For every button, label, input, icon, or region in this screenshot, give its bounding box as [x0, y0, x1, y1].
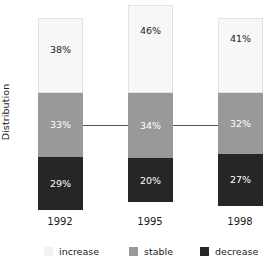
legend-label-increase: increase [59, 246, 99, 257]
bar-1992-label-stable: 33% [38, 120, 83, 130]
bar-1995[interactable]: 46% 34% 20% [128, 5, 173, 202]
bar-1995-segment-decrease[interactable]: 20% [128, 158, 173, 202]
bar-1995-segment-increase[interactable]: 46% [128, 5, 173, 93]
legend-swatch-increase-icon [44, 247, 53, 256]
bar-1998-label-increase: 41% [219, 34, 262, 44]
legend-label-decrease: decrease [215, 246, 258, 257]
legend-item-decrease[interactable]: decrease [200, 243, 258, 259]
bar-1992-label-increase: 38% [39, 45, 82, 55]
bar-1998-label-decrease: 27% [218, 175, 263, 185]
stacked-bar-chart: Distribution 38% 33% 29% 1992 46% 34% 20… [0, 0, 274, 267]
legend-item-stable[interactable]: stable [129, 243, 173, 259]
bar-1998[interactable]: 41% 32% 27% [218, 18, 263, 206]
bar-1992-segment-stable[interactable]: 33% [38, 93, 83, 157]
bar-1998-segment-decrease[interactable]: 27% [218, 154, 263, 206]
connector-line-1992-1995 [83, 125, 128, 126]
bar-1992[interactable]: 38% 33% 29% [38, 18, 83, 210]
legend-label-stable: stable [144, 246, 173, 257]
bar-1998-label-stable: 32% [218, 119, 263, 129]
legend-swatch-decrease-icon [200, 247, 209, 256]
x-tick-label-1998: 1998 [205, 216, 274, 227]
legend: increase stable decrease [0, 243, 274, 261]
bar-1992-segment-decrease[interactable]: 29% [38, 157, 83, 210]
y-axis-title: Distribution [0, 76, 16, 148]
bar-1992-segment-increase[interactable]: 38% [38, 18, 83, 93]
legend-swatch-stable-icon [129, 247, 138, 256]
bar-1995-label-increase: 46% [129, 26, 172, 36]
legend-item-increase[interactable]: increase [44, 243, 99, 259]
bar-1992-label-decrease: 29% [38, 179, 83, 189]
x-tick-label-1992: 1992 [25, 216, 95, 227]
x-tick-label-1995: 1995 [115, 216, 185, 227]
bar-1995-label-decrease: 20% [128, 176, 173, 186]
bar-1995-segment-stable[interactable]: 34% [128, 93, 173, 158]
connector-line-1995-1998 [172, 125, 218, 126]
bar-1998-segment-stable[interactable]: 32% [218, 93, 263, 154]
bar-1998-segment-increase[interactable]: 41% [218, 18, 263, 93]
bar-1995-label-stable: 34% [128, 121, 173, 131]
